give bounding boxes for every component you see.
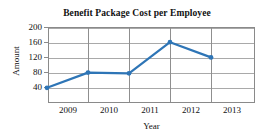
- data-point-2009: [45, 85, 50, 90]
- series-line: [47, 42, 211, 88]
- y-tick-label-160: 160: [16, 38, 42, 47]
- chart-container: Benefit Package Cost per Employee Amount…: [0, 0, 274, 138]
- series-markers: [45, 40, 214, 90]
- data-series-layer: [48, 27, 255, 103]
- y-tick-label-120: 120: [16, 53, 42, 62]
- data-point-2011: [127, 71, 132, 76]
- x-tick-label-2009: 2009: [48, 106, 88, 115]
- x-tick-label-2010: 2010: [89, 106, 129, 115]
- data-point-2013: [209, 55, 214, 60]
- y-tick-label-200: 200: [16, 23, 42, 32]
- y-tick-label-80: 80: [16, 68, 42, 77]
- chart-title: Benefit Package Cost per Employee: [0, 8, 274, 18]
- x-tick-label-2011: 2011: [130, 106, 170, 115]
- x-axis-title: Year: [48, 121, 255, 131]
- y-tick-label-40: 40: [16, 83, 42, 92]
- data-point-2012: [168, 40, 173, 45]
- x-tick-label-2012: 2012: [171, 106, 211, 115]
- data-point-2010: [86, 70, 91, 75]
- x-tick-label-2013: 2013: [212, 106, 252, 115]
